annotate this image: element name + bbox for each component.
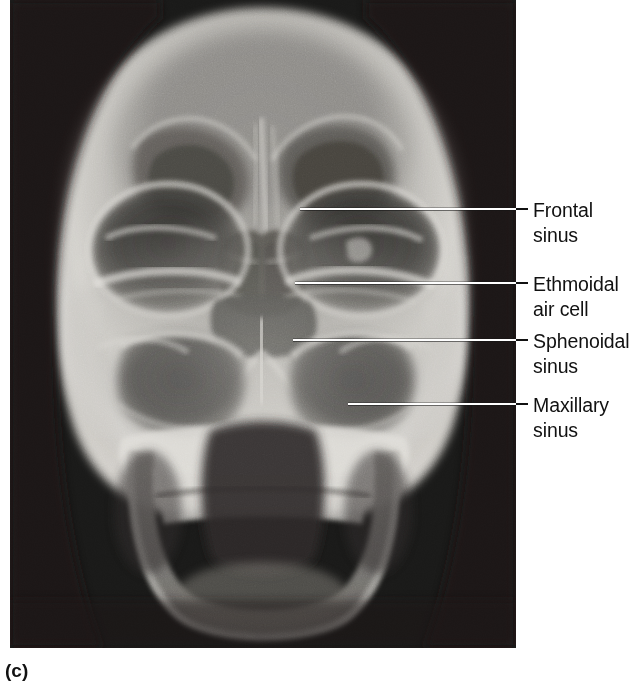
leader-line-ethmoidal-air-cell-ext [516, 282, 528, 284]
annotation-label-line: Maxillary [533, 393, 609, 418]
skull-radiograph-image [10, 0, 516, 648]
annotation-label-line: Sphenoidal [533, 329, 630, 354]
leader-line-sphenoidal-sinus [293, 339, 516, 341]
annotation-label-line: Ethmoidal [533, 272, 619, 297]
leader-line-frontal-sinus-ext [516, 208, 528, 210]
annotation-label-ethmoidal-air-cell: Ethmoidal air cell [533, 272, 619, 321]
annotation-label-line: air cell [533, 297, 619, 322]
annotation-label-line: sinus [533, 418, 609, 443]
leader-line-maxillary-sinus [348, 403, 516, 405]
annotation-label-frontal-sinus: Frontal sinus [533, 198, 593, 247]
leader-line-ethmoidal-air-cell [295, 282, 516, 284]
leader-line-sphenoidal-sinus-ext [516, 339, 528, 341]
annotation-label-maxillary-sinus: Maxillary sinus [533, 393, 609, 442]
annotation-label-line: Frontal [533, 198, 593, 223]
leader-line-frontal-sinus [300, 208, 516, 210]
leader-line-maxillary-sinus-ext [516, 403, 528, 405]
figure-panel-c: Frontal sinus Ethmoidal air cell Sphenoi… [0, 0, 641, 689]
annotation-label-line: sinus [533, 223, 593, 248]
annotation-label-line: sinus [533, 354, 630, 379]
panel-caption: (c) [5, 660, 28, 682]
annotation-label-sphenoidal-sinus: Sphenoidal sinus [533, 329, 630, 378]
